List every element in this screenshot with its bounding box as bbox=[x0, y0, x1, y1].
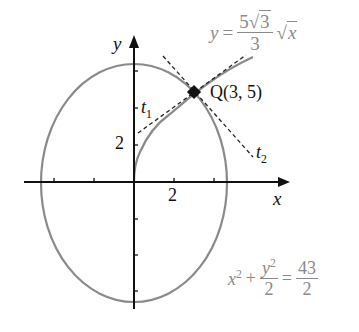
eq1-den: 3 bbox=[250, 33, 260, 53]
eq1-num-coef: 5 bbox=[239, 11, 249, 32]
t1-subscript: 1 bbox=[146, 108, 152, 121]
x-axis-arrow-icon bbox=[278, 177, 290, 187]
eq2-equals: = bbox=[282, 269, 292, 287]
tangent-t2 bbox=[163, 56, 253, 157]
tangent-t1-label: t1 bbox=[141, 98, 152, 120]
eq1-coefficient-fraction: 5√3 3 bbox=[237, 12, 272, 53]
eq2-y-fraction: y2 2 bbox=[260, 258, 278, 298]
y-tick-label-2: 2 bbox=[115, 134, 124, 152]
x-axis-label: x bbox=[273, 189, 281, 208]
point-q-label: Q(3, 5) bbox=[210, 83, 262, 101]
eq1-sqrt-x: √x bbox=[277, 23, 298, 42]
sqrt-curve-equation: y = 5√3 3 √x bbox=[210, 12, 297, 53]
eq2-rhs-fraction: 43 2 bbox=[296, 259, 318, 298]
x-tick-label-2: 2 bbox=[168, 186, 177, 204]
eq2-exp: 2 bbox=[236, 268, 242, 281]
eq1-equals: = bbox=[222, 23, 233, 42]
ellipse-equation: x2 + y2 2 = 43 2 bbox=[228, 258, 318, 298]
eq1-num-rad: 3 bbox=[259, 10, 271, 32]
tangent-t2-label: t2 bbox=[256, 143, 267, 165]
eq2-plus: + bbox=[246, 269, 256, 287]
eq2-x: x bbox=[228, 269, 236, 289]
y-axis-label: y bbox=[113, 34, 121, 53]
t2-subscript: 2 bbox=[261, 153, 267, 166]
y-axis-arrow-icon bbox=[129, 35, 139, 48]
eq1-y: y bbox=[210, 23, 218, 42]
